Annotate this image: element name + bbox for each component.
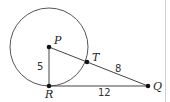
- point-p: [47, 45, 52, 50]
- length-rq: 12: [98, 87, 111, 98]
- geometry-diagram: P R T Q 5 8 12: [0, 0, 170, 102]
- point-t: [85, 60, 90, 65]
- length-pr: 5: [37, 61, 43, 72]
- label-r: R: [44, 88, 53, 101]
- length-tq: 8: [115, 63, 121, 74]
- label-p: P: [53, 34, 62, 47]
- point-q: [146, 84, 151, 89]
- label-q: Q: [153, 80, 162, 93]
- label-t: T: [92, 51, 101, 64]
